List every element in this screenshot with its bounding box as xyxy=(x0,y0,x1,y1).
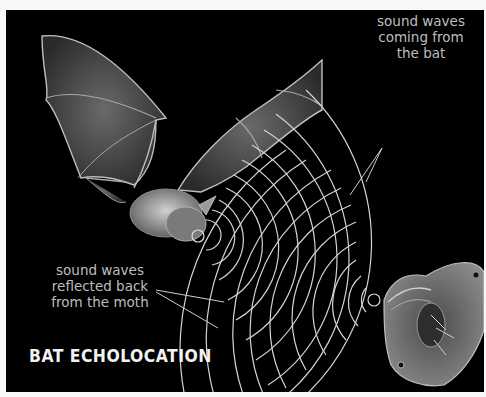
label-reflected-line-1: sound waves xyxy=(40,262,160,278)
label-outgoing-waves: sound waves coming from the bat xyxy=(358,13,484,61)
label-outgoing-line-1: sound waves xyxy=(358,13,484,29)
label-reflected-waves: sound waves reflected back from the moth xyxy=(40,262,160,310)
moth-illustration xyxy=(384,263,484,386)
diagram-title: BAT ECHOLOCATION xyxy=(29,346,212,366)
label-outgoing-line-2: coming from xyxy=(358,29,484,45)
bat-illustration xyxy=(42,36,322,242)
label-reflected-line-3: from the moth xyxy=(40,294,160,310)
diagram-panel: sound waves coming from the bat sound wa… xyxy=(6,10,484,392)
label-outgoing-line-3: the bat xyxy=(358,45,484,61)
label-reflected-line-2: reflected back xyxy=(40,278,160,294)
diagram-art xyxy=(6,10,484,392)
